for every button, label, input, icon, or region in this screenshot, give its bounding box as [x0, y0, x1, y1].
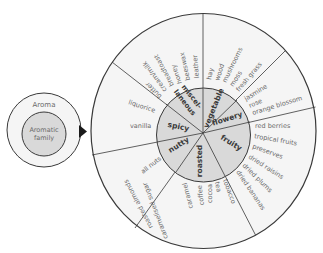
- legend-inner-label-1: Aromatic: [29, 126, 59, 134]
- legend-inner-label-2: family: [34, 134, 54, 142]
- wheel: miscel- laneous vegetable flowery fruity…: [91, 14, 316, 249]
- aroma-cocoa: cocoa: [206, 184, 214, 203]
- legend: Aroma Aromatic family: [7, 93, 81, 167]
- arrow-right-icon: [79, 125, 87, 138]
- legend-outer-label: Aroma: [33, 101, 56, 109]
- aroma-wheel-diagram: Aroma Aromatic family: [0, 0, 323, 253]
- aroma-vanilla: vanilla: [130, 122, 151, 130]
- family-label-roasted: roasted: [195, 145, 204, 177]
- aroma-red-berries: red berries: [255, 122, 291, 130]
